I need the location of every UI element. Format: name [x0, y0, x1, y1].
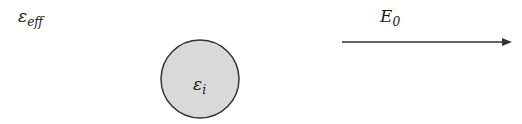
inclusion-permittivity-label: εi	[193, 76, 206, 96]
dielectric-inclusion-diagram: εeff εi E0	[0, 0, 522, 124]
e0-symbol: E	[380, 6, 392, 26]
field-arrow-head-icon	[502, 38, 512, 46]
diagram-canvas	[0, 0, 522, 124]
effective-permittivity-label: εeff	[18, 8, 43, 28]
applied-field-label: E0	[380, 8, 400, 28]
eps-i-subscript: i	[202, 83, 206, 97]
eps-eff-symbol: ε	[18, 6, 27, 26]
eps-i-symbol: ε	[193, 74, 202, 94]
e0-subscript: 0	[392, 15, 400, 29]
eps-eff-subscript: eff	[27, 15, 43, 29]
